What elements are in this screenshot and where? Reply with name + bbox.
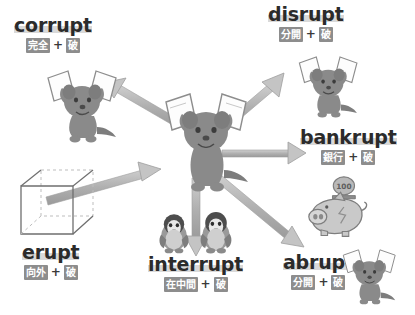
node-disrupt[interactable]: disrupt 分開 + 破 [268,5,344,42]
part-erupt-1: 向外 [24,265,48,280]
part-bankrupt-2: 破 [361,150,375,165]
dog-tearing-paper-icon-corrupt [44,66,122,142]
diagram-canvas: corrupt 完全 + 破 disrupt 分開 [0,0,415,315]
formula-disrupt: 分開 + 破 [268,27,344,42]
plus-icon: + [51,266,61,279]
center-figure [160,88,256,192]
part-disrupt-2: 破 [319,27,333,42]
formula-interrupt: 在中間 + 破 [148,277,243,292]
node-bankrupt[interactable]: bankrupt 銀行 + 破 [300,128,397,165]
node-interrupt[interactable]: interrupt 在中間 + 破 [148,255,243,292]
word-disrupt: disrupt [268,5,344,24]
part-corrupt-1: 完全 [26,38,50,53]
node-corrupt[interactable]: corrupt 完全 + 破 [14,16,92,53]
word-bankrupt: bankrupt [300,128,397,147]
part-disrupt-1: 分開 [279,27,303,42]
formula-corrupt: 完全 + 破 [14,38,92,53]
penguin-icon-right [198,208,234,254]
plus-icon: + [53,39,63,52]
part-erupt-2: 破 [64,265,78,280]
dog-tearing-paper-icon-abrupt [340,246,400,304]
plus-icon: + [306,28,316,41]
part-interrupt-1: 在中間 [164,277,198,292]
wireframe-cube-icon [15,160,103,244]
plus-icon: + [201,278,211,291]
formula-bankrupt: 銀行 + 破 [300,150,397,165]
plus-icon: + [318,276,328,289]
part-bankrupt-1: 銀行 [321,150,345,165]
word-corrupt: corrupt [14,16,92,35]
formula-erupt: 向外 + 破 [22,265,79,280]
dog-tearing-paper-icon-disrupt [296,52,362,118]
part-interrupt-2: 破 [214,277,228,292]
word-interrupt: interrupt [148,255,243,274]
word-erupt: erupt [22,243,79,262]
coin-label: 100 [336,182,351,191]
node-erupt[interactable]: erupt 向外 + 破 [22,243,79,280]
part-corrupt-2: 破 [66,38,80,53]
plus-icon: + [348,151,358,164]
piggy-bank-icon: 100 [306,176,372,238]
part-abrupt-1: 分開 [291,275,315,290]
penguin-icon-left [157,210,191,254]
